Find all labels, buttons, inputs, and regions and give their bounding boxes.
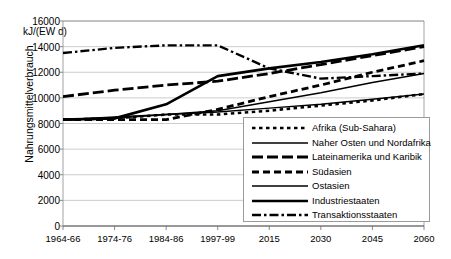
- x-axis-tick-label: 2030: [310, 233, 331, 244]
- chart-legend: Afrika (Sub-Sahara)Naher Osten und Norda…: [243, 117, 430, 222]
- chart-container: Nahrungsmittelverbrauch kJ/(EW d) 020004…: [0, 0, 451, 259]
- legend-line-swatch: [250, 122, 312, 134]
- legend-item-label: Lateinamerika und Karibik: [312, 152, 422, 162]
- legend-item: Naher Osten und Nordafrika: [244, 136, 429, 151]
- legend-item-label: Afrika (Sub-Sahara): [312, 123, 396, 133]
- legend-item: Lateinamerika und Karibik: [244, 150, 429, 165]
- x-axis-tick-label: 1997-99: [200, 233, 235, 244]
- x-axis-tick-label: 2015: [259, 233, 280, 244]
- legend-line-swatch: [250, 180, 312, 192]
- legend-item: Südasien: [244, 165, 429, 180]
- legend-item-label: Transaktionsstaaten: [312, 210, 397, 220]
- legend-item: Transaktionsstaaten: [244, 208, 429, 223]
- legend-item: Industriestaaten: [244, 194, 429, 209]
- legend-item-label: Industriestaaten: [312, 196, 380, 206]
- series-line: [63, 74, 424, 120]
- legend-line-swatch: [250, 195, 312, 207]
- x-axis-tick-label: 2045: [362, 233, 383, 244]
- x-axis-tick-label: 1984-86: [149, 233, 184, 244]
- data-series-group: [63, 45, 424, 119]
- legend-item: Afrika (Sub-Sahara): [244, 121, 429, 136]
- legend-line-swatch: [250, 166, 312, 178]
- x-axis-tick-label: 2060: [413, 233, 434, 244]
- legend-line-swatch: [250, 151, 312, 163]
- x-axis-tick-label: 1974-76: [97, 233, 132, 244]
- legend-line-swatch: [250, 137, 312, 149]
- x-axis-tick-label: 1964-66: [46, 233, 81, 244]
- legend-line-swatch: [250, 209, 312, 221]
- legend-item: Ostasien: [244, 179, 429, 194]
- legend-item-label: Ostasien: [312, 181, 350, 191]
- legend-item-label: Südasien: [312, 167, 352, 177]
- legend-item-label: Naher Osten und Nordafrika: [312, 138, 431, 148]
